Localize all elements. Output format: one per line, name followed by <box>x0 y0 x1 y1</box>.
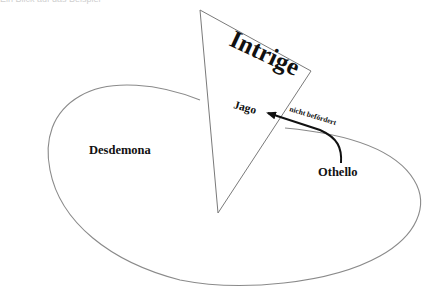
node-othello: Othello <box>318 165 358 179</box>
arrow-label: nicht befördert <box>288 104 338 127</box>
othello-diagram: Intrige Jago Desdemona Othello nicht bef… <box>0 0 428 299</box>
node-desdemona: Desdemona <box>89 143 152 157</box>
